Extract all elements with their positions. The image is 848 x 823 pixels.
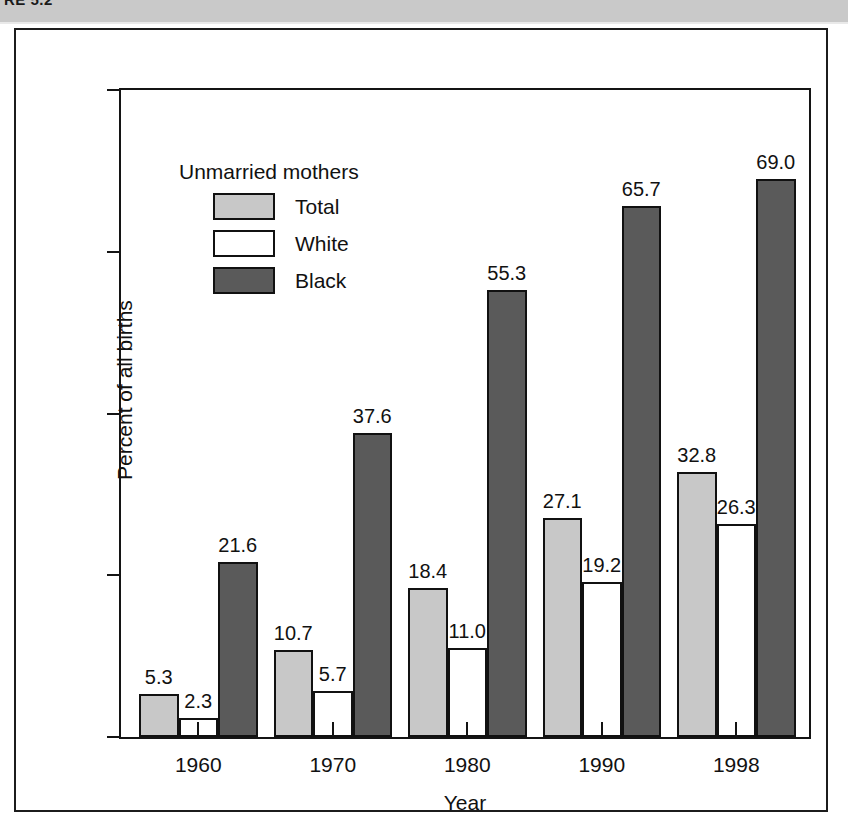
bar-value-label: 26.3 (691, 496, 781, 519)
legend-item-white[interactable]: White (177, 230, 359, 257)
bar-value-label: 5.3 (114, 666, 204, 689)
x-axis-tick-label: 1970 (273, 753, 393, 777)
x-axis-tick (601, 722, 603, 738)
x-axis-tick-label: 1990 (542, 753, 662, 777)
bar-black-1970[interactable] (353, 433, 393, 737)
y-axis-tick (107, 89, 121, 91)
legend-title: Unmarried mothers (177, 160, 359, 184)
x-axis-tick (332, 722, 334, 738)
bar-black-1980[interactable] (487, 290, 527, 737)
bar-value-label: 19.2 (557, 554, 647, 577)
legend-label-black: Black (295, 269, 346, 293)
bar-value-label: 37.6 (327, 405, 417, 428)
chart-plot-area: 0204060805.32.321.6196010.75.737.6197018… (119, 88, 811, 739)
chart-legend: Unmarried mothers Total White Black (177, 160, 359, 304)
bar-white-1990[interactable] (582, 582, 622, 737)
bar-value-label: 21.6 (193, 534, 283, 557)
bar-value-label: 55.3 (462, 262, 552, 285)
figure-caption-bar: RE 5.2 (0, 0, 848, 22)
legend-swatch-white-icon (213, 230, 275, 257)
x-axis-tick (466, 722, 468, 738)
figure-number-label: RE 5.2 (4, 0, 53, 8)
x-axis-tick (197, 722, 199, 738)
y-axis-tick (107, 251, 121, 253)
bar-black-1990[interactable] (622, 206, 662, 737)
x-axis-tick (735, 722, 737, 738)
bar-black-1998[interactable] (756, 179, 796, 737)
bar-value-label: 5.7 (288, 663, 378, 686)
bar-value-label: 11.0 (422, 620, 512, 643)
legend-item-black[interactable]: Black (177, 267, 359, 294)
x-axis-tick-label: 1998 (676, 753, 796, 777)
bar-white-1998[interactable] (717, 524, 757, 737)
legend-item-total[interactable]: Total (177, 193, 359, 220)
legend-label-white: White (295, 232, 349, 256)
bar-value-label: 2.3 (153, 690, 243, 713)
figure-frame: 0204060805.32.321.6196010.75.737.6197018… (14, 28, 828, 812)
y-axis-title: Percent of all births (113, 300, 137, 480)
x-axis-tick-label: 1960 (138, 753, 258, 777)
bar-value-label: 10.7 (248, 622, 338, 645)
bar-total-1980[interactable] (408, 588, 448, 737)
caption-divider (0, 22, 848, 24)
bar-value-label: 65.7 (596, 178, 686, 201)
legend-label-total: Total (295, 195, 339, 219)
y-axis-tick (107, 736, 121, 738)
x-axis-tick-label: 1980 (407, 753, 527, 777)
bar-value-label: 27.1 (517, 490, 607, 513)
bar-total-1990[interactable] (543, 518, 583, 737)
bar-value-label: 69.0 (731, 151, 821, 174)
x-axis-title: Year (121, 791, 809, 815)
legend-swatch-total-icon (213, 193, 275, 220)
bar-value-label: 32.8 (652, 444, 742, 467)
y-axis-tick (107, 574, 121, 576)
legend-swatch-black-icon (213, 267, 275, 294)
bar-value-label: 18.4 (383, 560, 473, 583)
